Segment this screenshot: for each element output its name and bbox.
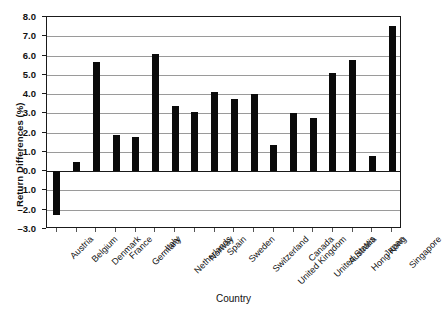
gridline xyxy=(47,94,400,95)
x-tick-mark xyxy=(312,228,313,232)
y-tick-label: 2.0 xyxy=(2,128,36,138)
x-tick-mark xyxy=(391,228,392,232)
bar xyxy=(310,118,317,171)
y-tick-mark xyxy=(42,93,46,94)
y-tick-mark xyxy=(42,189,46,190)
y-tick-label: –3.0 xyxy=(2,224,36,234)
y-tick-label: 7.0 xyxy=(2,31,36,41)
y-tick-mark xyxy=(42,55,46,56)
gridline xyxy=(47,113,400,114)
x-tick-mark xyxy=(253,228,254,232)
bar xyxy=(329,73,336,171)
y-tick-mark xyxy=(42,170,46,171)
bar xyxy=(290,113,297,171)
plot-area xyxy=(46,16,401,228)
bar xyxy=(251,94,258,171)
x-tick-mark xyxy=(332,228,333,232)
y-tick-label: –2.0 xyxy=(2,205,36,215)
gridline xyxy=(47,152,400,153)
y-tick-label: 5.0 xyxy=(2,70,36,80)
y-tick-label: 0.0 xyxy=(2,166,36,176)
x-tick-mark xyxy=(371,228,372,232)
x-tick-label: Sweden xyxy=(247,234,277,264)
gridline xyxy=(47,190,400,191)
y-tick-mark xyxy=(42,112,46,113)
gridline xyxy=(47,133,400,134)
y-tick-mark xyxy=(42,228,46,229)
bar xyxy=(231,99,238,171)
y-tick-mark xyxy=(42,209,46,210)
x-tick-mark xyxy=(56,228,57,232)
x-tick-mark xyxy=(293,228,294,232)
bar xyxy=(389,26,396,172)
y-tick-label: 1.0 xyxy=(2,147,36,157)
bar xyxy=(349,60,356,171)
bar xyxy=(132,137,139,171)
y-tick-label: 6.0 xyxy=(2,51,36,61)
bar xyxy=(53,171,60,214)
y-tick-mark xyxy=(42,132,46,133)
x-tick-mark xyxy=(115,228,116,232)
x-axis-title: Country xyxy=(0,293,421,304)
y-tick-mark xyxy=(42,35,46,36)
y-tick-label: –1.0 xyxy=(2,185,36,195)
y-tick-label: 8.0 xyxy=(2,12,36,22)
x-tick-label: Japan xyxy=(383,234,407,258)
y-tick-mark xyxy=(42,74,46,75)
bar xyxy=(369,156,376,171)
bar xyxy=(172,106,179,172)
bar xyxy=(152,54,159,172)
gridline xyxy=(47,36,400,37)
y-tick-mark xyxy=(42,16,46,17)
x-tick-mark xyxy=(135,228,136,232)
bar xyxy=(113,135,120,172)
x-tick-mark xyxy=(76,228,77,232)
y-axis-tick-labels: 8.07.06.05.04.03.02.01.00.0–1.0–2.0–3.0 xyxy=(0,0,36,315)
gridline xyxy=(47,210,400,211)
y-tick-label: 3.0 xyxy=(2,108,36,118)
x-tick-mark xyxy=(233,228,234,232)
bar xyxy=(93,62,100,171)
x-tick-mark xyxy=(214,228,215,232)
x-tick-mark xyxy=(95,228,96,232)
x-tick-label: Singapore xyxy=(407,234,443,270)
x-tick-mark xyxy=(174,228,175,232)
x-tick-mark xyxy=(194,228,195,232)
x-axis-title-text: Country xyxy=(170,293,251,304)
bar xyxy=(270,145,277,171)
x-tick-label: Switzerland xyxy=(271,234,311,274)
bar xyxy=(73,162,80,172)
y-tick-mark xyxy=(42,151,46,152)
x-tick-mark xyxy=(352,228,353,232)
bar xyxy=(211,92,218,171)
x-tick-mark xyxy=(273,228,274,232)
gridline xyxy=(47,56,400,57)
gridline xyxy=(47,75,400,76)
y-tick-label: 4.0 xyxy=(2,89,36,99)
zero-baseline xyxy=(47,171,400,172)
x-tick-mark xyxy=(154,228,155,232)
bar xyxy=(191,112,198,171)
